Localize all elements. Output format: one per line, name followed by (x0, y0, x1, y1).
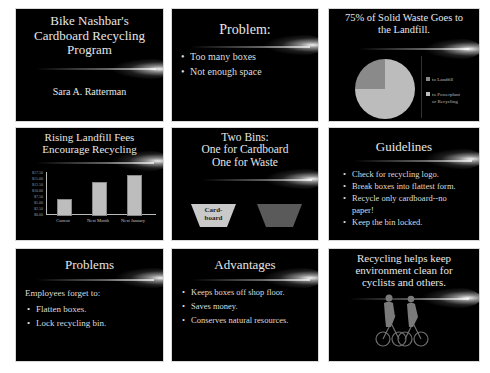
slide-subtitle: Sara A. Ratterman (16, 86, 163, 97)
decorative-comet (424, 38, 479, 60)
title-line: Rising Landfill Fees (16, 131, 163, 143)
cyclists-image (373, 293, 429, 351)
y-tick: $17.50 (25, 170, 43, 175)
slide-thumbnail-3[interactable]: 75% of Solid Waste Goes to the Landfill.… (329, 9, 479, 121)
legend-item: to Powerplant (426, 91, 460, 98)
y-tick: $2.50 (25, 206, 43, 211)
slide-thumbnail-5[interactable]: Two Bins: One for Cardboard One for Wast… (172, 128, 318, 240)
slide-thumbnail-8[interactable]: Advantages Keeps boxes off shop floor. S… (172, 249, 318, 361)
bar-next-month (92, 182, 107, 216)
pie-legend: to Landfill to Powerplant or Recycling (426, 76, 460, 105)
title-line: Encourage Recycling (16, 143, 163, 155)
bullet-item: Conserves natural resources. (182, 313, 288, 327)
bullet-item: Not enough space (181, 64, 262, 79)
y-tick: $15.00 (25, 176, 43, 181)
y-tick: $5.00 (25, 200, 43, 205)
slide-thumbnail-4[interactable]: Rising Landfill Fees Encourage Recycling… (16, 128, 163, 240)
title-line: the Landfill. (329, 24, 479, 36)
slide-title: Advantages (172, 258, 318, 273)
legend-label: to Powerplant (432, 92, 460, 97)
bullet-item: Check for recycling logo. (343, 168, 456, 180)
legend-label-cont: or Recycling (426, 98, 460, 105)
y-axis (46, 172, 47, 214)
bin-label: board (191, 214, 236, 222)
slide-title: Problems (16, 258, 163, 273)
bullet-line: Recycle only cardboard--no (352, 192, 456, 204)
slide-title: Rising Landfill Fees Encourage Recycling (16, 131, 163, 156)
slide-title: Guidelines (329, 140, 479, 155)
slide-thumbnail-1[interactable]: Bike Nashbar's Cardboard Recycling Progr… (16, 9, 163, 121)
slide-title: Two Bins: One for Cardboard One for Wast… (172, 131, 318, 168)
x-category: Next January (115, 218, 151, 223)
bullet-list: Too many boxes Not enough space (181, 49, 262, 79)
legend-item: to Landfill (426, 76, 460, 83)
waste-bin (257, 204, 302, 227)
intro-text: Employees forget to: (25, 288, 100, 298)
y-tick: $0.00 (25, 212, 43, 217)
slide-title: Problem: (172, 22, 318, 38)
slide-thumbnail-2[interactable]: Problem: Too many boxes Not enough space (172, 9, 318, 121)
bullet-item: Too many boxes (181, 49, 262, 64)
legend-label: to Landfill (432, 77, 453, 82)
x-category: Current (45, 218, 81, 223)
bar-next-january (127, 175, 142, 216)
decorative-comet (421, 287, 479, 309)
decorative-comet (111, 58, 163, 80)
bullet-item: Keep the bin locked. (343, 216, 456, 228)
slide-thumbnail-7[interactable]: Problems Employees forget to: Flatten bo… (16, 249, 163, 361)
bullet-item: Lock recycling bin. (27, 316, 106, 330)
cardboard-bin: Card- board (191, 204, 236, 227)
slide-thumbnail-9[interactable]: Recycling helps keep environment clean f… (329, 249, 479, 361)
title-line: One for Cardboard (172, 143, 318, 155)
title-line: Recycling helps keep (329, 252, 479, 264)
title-line: Program (16, 43, 163, 58)
bullet-item: Break boxes into flattest form. (343, 180, 456, 192)
decorative-comet (264, 168, 318, 190)
y-tick: $12.50 (25, 182, 43, 187)
bullet-list: Check for recycling logo. Break boxes in… (343, 168, 456, 228)
title-line: Two Bins: (172, 131, 318, 143)
x-category: Next Month (80, 218, 116, 223)
bullet-item: Saves money. (182, 299, 288, 313)
title-line: One for Waste (172, 156, 318, 168)
legend-swatch (426, 92, 430, 96)
bin-label: Card- (191, 206, 236, 214)
bullet-item: Flatten boxes. (27, 302, 106, 316)
bar-current (57, 199, 72, 216)
slide-title: Bike Nashbar's Cardboard Recycling Progr… (16, 14, 163, 58)
title-line: Bike Nashbar's (16, 14, 163, 29)
title-line: environment clean for (329, 264, 479, 276)
y-tick: $7.50 (25, 194, 43, 199)
title-line: Cardboard Recycling (16, 29, 163, 44)
slide-title: Recycling helps keep environment clean f… (329, 252, 479, 288)
legend-swatch (426, 77, 430, 81)
y-tick: $10.00 (25, 188, 43, 193)
bullet-item: Recycle only cardboard--nopaper! (343, 192, 456, 216)
slide-title: 75% of Solid Waste Goes to the Landfill. (329, 12, 479, 36)
title-line: cyclists and others. (329, 276, 479, 288)
chart-divider (421, 56, 422, 118)
title-line: 75% of Solid Waste Goes to (329, 12, 479, 24)
bullet-list: Flatten boxes. Lock recycling bin. (27, 302, 106, 330)
bullet-item: Keeps boxes off shop floor. (182, 285, 288, 299)
bullet-list: Keeps boxes off shop floor. Saves money.… (182, 285, 288, 327)
bullet-line: paper! (352, 204, 456, 216)
pie-chart (355, 59, 415, 119)
slide-thumbnail-6[interactable]: Guidelines Check for recycling logo. Bre… (329, 128, 479, 240)
